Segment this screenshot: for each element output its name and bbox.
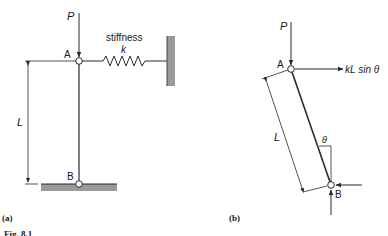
panel-label-a: (a) <box>2 213 13 223</box>
force-label-text: kL sin θ <box>345 64 380 75</box>
panel-label-b: (b) <box>229 213 240 223</box>
dimension-line-l <box>266 80 303 191</box>
spring-label-k: k <box>121 44 127 55</box>
node-label-a: A <box>277 59 284 70</box>
spring <box>82 56 168 66</box>
pin-b <box>76 181 83 188</box>
load-label-p: P <box>280 20 288 32</box>
angle-label-theta: θ <box>322 135 327 145</box>
extension-line-top <box>262 70 288 79</box>
wall-support <box>167 36 175 86</box>
node-label-a: A <box>64 49 71 60</box>
pin-a <box>288 66 295 73</box>
column-buckling-diagram: P stiffness k A L B (a) P kL sin θ <box>0 0 388 236</box>
panel-a: P stiffness k A L B (a) <box>2 10 175 223</box>
node-label-b: B <box>335 189 342 200</box>
spring-label-stiffness: stiffness <box>106 32 143 43</box>
panel-b: P kL sin θ θ L A B (b) <box>229 20 380 223</box>
length-label-l: L <box>17 116 23 128</box>
node-label-b: B <box>67 171 74 182</box>
length-label-l: L <box>274 131 280 143</box>
spring-force-label: kL sin θ <box>345 64 380 75</box>
tilted-column <box>292 72 330 182</box>
pin-a <box>76 58 83 65</box>
figure-caption: Fig. 8.1 <box>4 229 32 236</box>
load-label-p: P <box>67 10 75 22</box>
pin-b <box>328 182 335 189</box>
extension-line-bottom <box>303 186 327 192</box>
